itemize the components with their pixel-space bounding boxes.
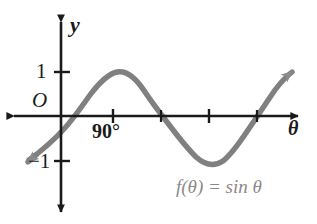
y-axis-label: y (70, 14, 80, 36)
y-tick-label-one: 1 (36, 61, 47, 82)
function-annotation-label: f(θ) = sin θ (176, 177, 262, 196)
y-tick-label-negative-one: −1 (28, 151, 50, 172)
sine-graph-figure: y θ O 1 −1 90° f(θ) = sin θ (0, 0, 317, 224)
plot-canvas (0, 0, 317, 224)
origin-label: O (32, 90, 47, 111)
x-tick-label-90: 90° (92, 121, 120, 141)
theta-axis-label: θ (288, 118, 298, 138)
